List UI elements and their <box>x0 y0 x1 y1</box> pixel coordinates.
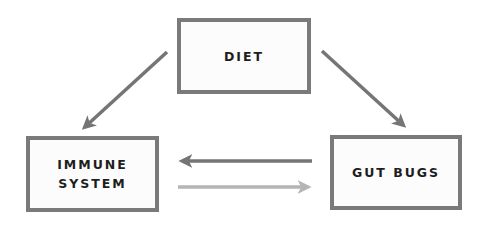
node-diet: DIET <box>177 18 311 94</box>
arrow-diet-to-immune <box>86 52 167 126</box>
node-gut-bugs-label: GUT BUGS <box>352 163 440 182</box>
node-diet-label: DIET <box>224 47 264 66</box>
arrow-diet-to-gut <box>322 51 402 124</box>
node-immune-system-label: IMMUNE SYSTEM <box>57 155 128 193</box>
node-immune-system: IMMUNE SYSTEM <box>26 136 159 212</box>
node-gut-bugs: GUT BUGS <box>330 135 462 210</box>
